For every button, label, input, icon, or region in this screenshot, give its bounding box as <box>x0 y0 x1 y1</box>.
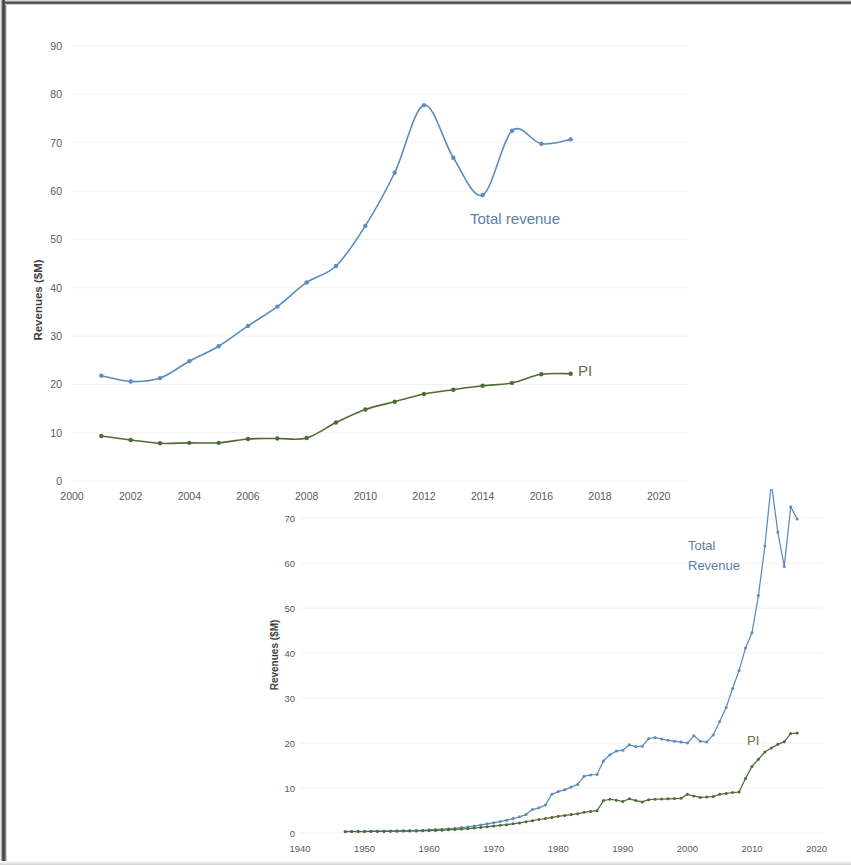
data-point <box>544 804 547 807</box>
x-tick-label: 1980 <box>548 843 569 854</box>
series-line <box>345 733 797 832</box>
data-point <box>363 830 366 833</box>
bottom-chart-total-revenue-label-line2: Revenue <box>688 558 740 573</box>
data-point <box>712 795 715 798</box>
data-point <box>524 813 527 816</box>
data-point <box>641 800 644 803</box>
data-point <box>505 819 508 822</box>
data-point <box>428 829 431 832</box>
data-point <box>550 793 553 796</box>
data-point <box>641 745 644 748</box>
series-pi <box>99 372 573 446</box>
x-tick-label: 1960 <box>419 843 440 854</box>
data-point <box>738 791 741 794</box>
data-point <box>447 828 450 831</box>
data-point <box>421 829 424 832</box>
data-point <box>480 384 484 388</box>
data-point <box>451 387 455 391</box>
data-point <box>441 829 444 832</box>
data-point <box>275 436 279 440</box>
data-point <box>334 420 338 424</box>
data-point <box>679 741 682 744</box>
y-tick-label: 60 <box>50 185 62 197</box>
x-tick-label: 2010 <box>741 843 762 854</box>
data-point <box>570 813 573 816</box>
data-point <box>789 505 792 508</box>
data-point <box>158 441 162 445</box>
series-line <box>345 483 797 832</box>
x-tick-label: 2004 <box>178 490 202 502</box>
data-point <box>334 264 338 268</box>
data-point <box>304 280 308 284</box>
data-point <box>763 544 766 547</box>
data-point <box>531 819 534 822</box>
data-point <box>602 760 605 763</box>
data-point <box>699 740 702 743</box>
data-point <box>705 741 708 744</box>
data-point <box>187 359 191 363</box>
data-point <box>216 441 220 445</box>
data-point <box>370 830 373 833</box>
data-point <box>576 783 579 786</box>
data-point <box>460 828 463 831</box>
y-tick-label: 50 <box>50 233 62 245</box>
data-point <box>451 156 455 160</box>
data-point <box>615 750 618 753</box>
data-point <box>583 811 586 814</box>
data-point <box>357 830 360 833</box>
data-point <box>512 822 515 825</box>
x-tick-label: 1950 <box>354 843 375 854</box>
x-tick-label: 2006 <box>236 490 260 502</box>
data-point <box>654 798 657 801</box>
bottom-chart-y-axis-ticks: 010203040506070 <box>284 513 295 839</box>
data-point <box>408 830 411 833</box>
data-point <box>422 103 426 107</box>
x-tick-label: 2020 <box>806 843 827 854</box>
bottom-chart-total-revenue-label-line1: Total <box>688 538 716 553</box>
data-point <box>518 821 521 824</box>
y-tick-label: 20 <box>50 378 62 390</box>
y-tick-label: 30 <box>50 330 62 342</box>
y-tick-label: 20 <box>284 738 295 749</box>
data-point <box>499 820 502 823</box>
data-point <box>473 827 476 830</box>
data-point <box>686 742 689 745</box>
data-point <box>679 797 682 800</box>
data-point <box>712 733 715 736</box>
data-point <box>570 786 573 789</box>
data-point <box>510 129 514 133</box>
data-point <box>363 407 367 411</box>
bottom-chart-gridlines <box>300 518 823 833</box>
bottom-chart-pi-label: PI <box>747 733 759 748</box>
data-point <box>518 815 521 818</box>
data-point <box>757 594 760 597</box>
y-tick-label: 90 <box>50 40 62 52</box>
data-point <box>744 777 747 780</box>
data-point <box>770 746 773 749</box>
data-point <box>304 436 308 440</box>
data-point <box>382 830 385 833</box>
data-point <box>673 740 676 743</box>
data-point <box>596 773 599 776</box>
top-chart-y-axis-title: Revenues ($M) <box>32 259 44 340</box>
data-point <box>621 749 624 752</box>
x-tick-label: 2002 <box>119 490 143 502</box>
y-tick-label: 10 <box>50 427 62 439</box>
data-point <box>725 792 728 795</box>
x-tick-label: 2000 <box>60 490 84 502</box>
data-point <box>750 631 753 634</box>
data-point <box>589 810 592 813</box>
data-point <box>568 372 572 376</box>
data-point <box>699 796 702 799</box>
x-tick-label: 1990 <box>612 843 633 854</box>
y-tick-label: 40 <box>284 648 295 659</box>
data-point <box>776 743 779 746</box>
top-chart-total-revenue-label: Total revenue <box>470 210 560 227</box>
data-point <box>158 376 162 380</box>
data-point <box>654 736 657 739</box>
data-point <box>350 830 353 833</box>
data-point <box>628 743 631 746</box>
data-point <box>246 324 250 328</box>
bottom-chart-svg: 010203040506070 194019501960197019801990… <box>258 495 851 865</box>
top-chart-series-group <box>99 103 573 446</box>
